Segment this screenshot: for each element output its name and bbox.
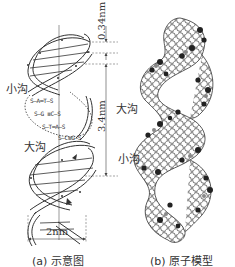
- base-pair-gc: S—G ≡C—S: [34, 110, 61, 117]
- caption-a: (a) 示意图: [32, 252, 84, 267]
- width-dimension-label: 2nm: [46, 226, 68, 237]
- base-pair-ta: S—T═A—S: [42, 123, 65, 130]
- minor-groove-label-b: 小沟: [118, 150, 140, 166]
- pitch-dimension-label: 3.4nm: [96, 100, 107, 132]
- atomic-model-drawing: [120, 0, 235, 267]
- caption-b: (b) 原子模型: [150, 252, 213, 267]
- panel-a-schematic: S—A═T—S S—G ≡C—S S—T═A—S S—C≡G—S 小沟 大沟 0…: [0, 0, 120, 267]
- rise-dimension-label: 0.34nm: [96, 2, 107, 40]
- base-pair-cg: S—C≡G—S: [58, 134, 81, 141]
- major-groove-label-b: 大沟: [116, 100, 138, 116]
- base-pair-at: S—A═T—S: [30, 97, 53, 104]
- panel-b-atomic-model: 大沟 小沟 (b) 原子模型: [120, 0, 235, 267]
- minor-groove-label-a: 小沟: [6, 80, 28, 96]
- major-groove-label-a: 大沟: [24, 138, 46, 154]
